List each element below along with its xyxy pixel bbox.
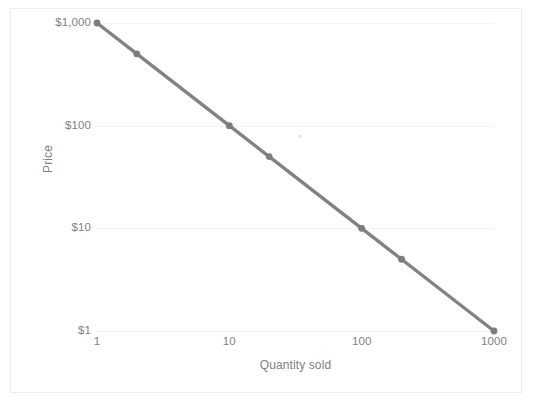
plot-area [97,23,494,331]
x-tick-label-100: 100 [352,335,372,347]
x-axis-title: Quantity sold [97,358,494,372]
chart-root: $1,000 $100 $10 $1 1 10 100 1000 Quantit… [0,0,535,411]
figure-caption [0,400,535,411]
data-point [266,153,273,160]
stray-speck [299,135,302,138]
y-axis-title: Price [41,131,55,187]
series-svg [87,13,504,341]
data-point [491,328,498,335]
data-point [226,122,233,129]
y-tick-label-1000: $1,000 [55,16,91,28]
x-tick-label-1: 1 [94,335,101,347]
data-point [358,225,365,232]
data-point [94,20,101,27]
x-axis-tick-labels: 1 10 100 1000 [97,335,494,353]
x-tick-label-10: 10 [223,335,236,347]
x-tick-label-1000: 1000 [481,335,507,347]
series-line [97,23,494,331]
data-point [133,51,140,58]
data-point [398,256,405,263]
